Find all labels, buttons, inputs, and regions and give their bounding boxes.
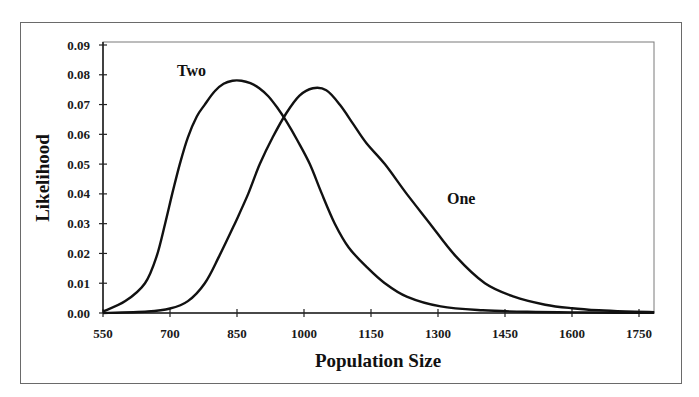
x-axis: 550700850100011501300145016001750 [93,309,654,341]
y-tick-label: 0.00 [67,306,90,321]
series-label-one: One [447,190,475,207]
x-tick-label: 1600 [559,326,585,341]
y-axis-title: Likelihood [32,134,53,222]
x-tick-label: 850 [227,326,247,341]
series-label-two: Two [177,62,206,79]
plot-border [103,42,654,313]
y-tick-label: 0.05 [67,157,90,172]
likelihood-chart: 0.000.010.020.030.040.050.060.070.080.09… [0,0,699,397]
series-line-two [103,80,654,312]
x-tick-label: 550 [93,326,113,341]
x-tick-label: 1150 [358,326,383,341]
y-tick-label: 0.09 [67,38,90,53]
x-tick-label: 1300 [425,326,451,341]
y-tick-label: 0.06 [67,127,90,142]
y-tick-label: 0.07 [67,97,90,112]
series-lines [103,80,654,313]
x-tick-label: 1450 [492,326,518,341]
x-tick-label: 1000 [291,326,317,341]
y-axis: 0.000.010.020.030.040.050.060.070.080.09 [67,38,107,321]
y-tick-label: 0.01 [67,276,90,291]
plot-area [103,42,654,313]
y-tick-label: 0.08 [67,67,90,82]
x-axis-title: Population Size [315,350,441,371]
y-tick-label: 0.04 [67,186,90,201]
y-tick-label: 0.03 [67,216,90,231]
x-tick-label: 700 [160,326,180,341]
y-tick-label: 0.02 [67,246,90,261]
x-tick-label: 1750 [626,326,652,341]
